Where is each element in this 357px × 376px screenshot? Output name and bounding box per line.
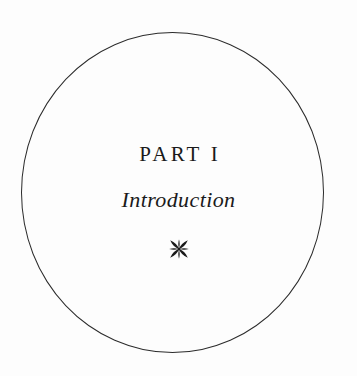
part-title-page: PART I Introduction [0, 0, 357, 376]
decorative-circle-rule [21, 32, 324, 353]
